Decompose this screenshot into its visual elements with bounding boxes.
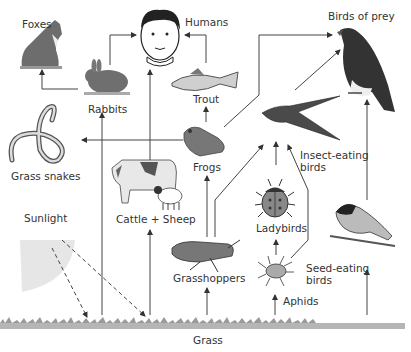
label-grass-snakes: Grass snakes [11,170,80,182]
arrow-insectbirds-birdsofprey [295,50,340,90]
label-birds-of-prey: Birds of prey [328,10,395,22]
arrow-sunlight-grass-2 [62,240,145,316]
label-seed-eating-birds-line1: Seed-eating [306,262,369,274]
label-frogs: Frogs [193,161,221,173]
ladybird-icon [255,179,295,217]
label-insect-eating-birds-line1: Insect-eating [300,149,369,161]
label-ladybirds: Ladybirds [256,222,307,234]
human-icon [141,10,180,66]
aphid-icon [258,256,294,286]
label-humans: Humans [185,16,228,28]
frog-icon [184,127,224,156]
sheep-icon [154,186,182,210]
label-trout: Trout [193,93,219,105]
label-sunlight: Sunlight [24,212,67,224]
label-foxes: Foxes [22,18,52,30]
label-grasshoppers: Grasshoppers [173,272,246,284]
rabbit-icon [84,59,130,95]
label-aphids: Aphids [283,295,319,307]
label-cattle-sheep: Cattle + Sheep [116,213,196,225]
arrow-rabbits-foxes [42,70,78,89]
arrow-trout-humans [185,35,206,63]
arrow-rabbits-humans [110,35,136,65]
seed-eating-bird-icon [330,204,395,246]
label-seed-eating-birds-line2: birds [306,274,332,286]
grass-strip [0,317,405,329]
swallow-icon [262,96,340,140]
trout-icon [172,68,238,91]
bird-of-prey-icon [337,28,395,112]
label-rabbits: Rabbits [88,103,127,115]
label-grass: Grass [193,334,223,346]
grasshopper-icon [172,240,240,272]
sunlight-shape [20,240,75,292]
label-insect-eating-birds-line2: birds [300,161,326,173]
